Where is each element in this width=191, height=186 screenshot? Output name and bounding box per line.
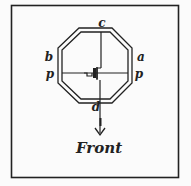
- label-a: a: [137, 51, 145, 63]
- label-d: d: [92, 101, 100, 113]
- label-p-right: p: [135, 68, 143, 80]
- label-front: Front: [76, 141, 122, 156]
- diagram-canvas: [0, 0, 191, 186]
- octagon-inner: [62, 32, 128, 99]
- label-b: b: [45, 51, 53, 63]
- octagon-outer: [58, 28, 132, 103]
- label-c: c: [98, 17, 105, 29]
- label-p-left: p: [46, 68, 54, 80]
